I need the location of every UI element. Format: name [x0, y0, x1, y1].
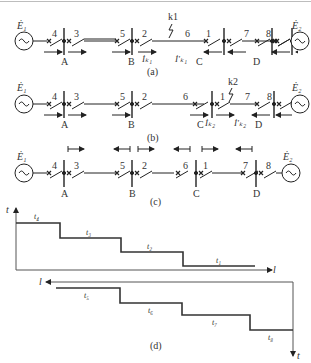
source-right-label: Ė₂	[283, 151, 293, 162]
step-label: t₄	[34, 212, 39, 221]
fault-label: k2	[228, 76, 238, 87]
breaker-label: 5	[120, 91, 125, 102]
breaker-label: 1	[206, 28, 211, 39]
breaker-label: 2	[142, 28, 147, 39]
breaker-label: 5	[120, 160, 125, 171]
panel-caption: (a)	[147, 66, 158, 77]
bus-label: D	[253, 188, 260, 199]
bus-label: C	[193, 188, 200, 199]
breaker-label: 5	[120, 28, 125, 39]
step-label: t₃	[86, 228, 91, 237]
bus-label: B	[128, 56, 135, 67]
breaker-label: 2	[142, 91, 147, 102]
breaker-label: 8	[267, 91, 272, 102]
source-left-label: Ė₁	[17, 151, 27, 162]
breaker-label: 6	[183, 160, 188, 171]
breaker-label: 8	[266, 28, 271, 39]
bus-label: A	[61, 188, 68, 199]
y-axis-label: t	[6, 204, 9, 215]
source-left-label: Ė₁	[17, 20, 27, 31]
bus-label: B	[129, 188, 136, 199]
bus-label: A	[61, 56, 68, 67]
breaker-label: 6	[185, 28, 190, 39]
breaker-label: 2	[142, 160, 147, 171]
bus-label: C	[197, 119, 204, 130]
breaker-label: 3	[74, 91, 79, 102]
step-label: t₂	[147, 242, 152, 251]
y-axis-label: t	[297, 350, 300, 361]
current-label: İ'ₖ₂	[234, 118, 246, 128]
panel-caption: (d)	[150, 340, 162, 351]
step-label: t₈	[268, 333, 273, 342]
bus-label: A	[61, 119, 68, 130]
bus-label: C	[196, 56, 203, 67]
breaker-label: 4	[52, 28, 57, 39]
step-label: t₅	[84, 291, 89, 300]
x-axis-label: l	[273, 264, 276, 275]
panel-caption: (c)	[150, 196, 161, 207]
breaker-label: 4	[52, 160, 57, 171]
current-label: İₖ₂	[205, 118, 215, 128]
breaker-label: 7	[244, 28, 249, 39]
current-label: İ'ₖ₁	[175, 54, 187, 64]
breaker-label: 8	[266, 160, 271, 171]
step-label: t₁	[216, 256, 221, 265]
panel-caption: (b)	[147, 132, 159, 143]
breaker-label: 7	[243, 160, 248, 171]
breaker-label: 6	[183, 91, 188, 102]
breaker-label: 1	[220, 91, 225, 102]
bus-label: D	[253, 56, 260, 67]
bus-label: D	[255, 119, 262, 130]
source-left-label: Ė₁	[17, 82, 27, 93]
fault-label: k1	[168, 11, 178, 22]
breaker-label: 1	[203, 160, 208, 171]
step-label: t₆	[148, 306, 153, 315]
breaker-label: 4	[52, 91, 57, 102]
x-axis-label: l	[39, 276, 42, 287]
source-right-label: Ė₂	[292, 20, 302, 31]
bus-label: B	[128, 119, 135, 130]
breaker-label: 3	[74, 160, 79, 171]
breaker-label: 3	[74, 28, 79, 39]
step-label: t₇	[212, 318, 217, 327]
current-label: İₖ₁	[142, 54, 152, 64]
breaker-label: 7	[245, 91, 250, 102]
source-right-label: Ė₂	[292, 82, 302, 93]
